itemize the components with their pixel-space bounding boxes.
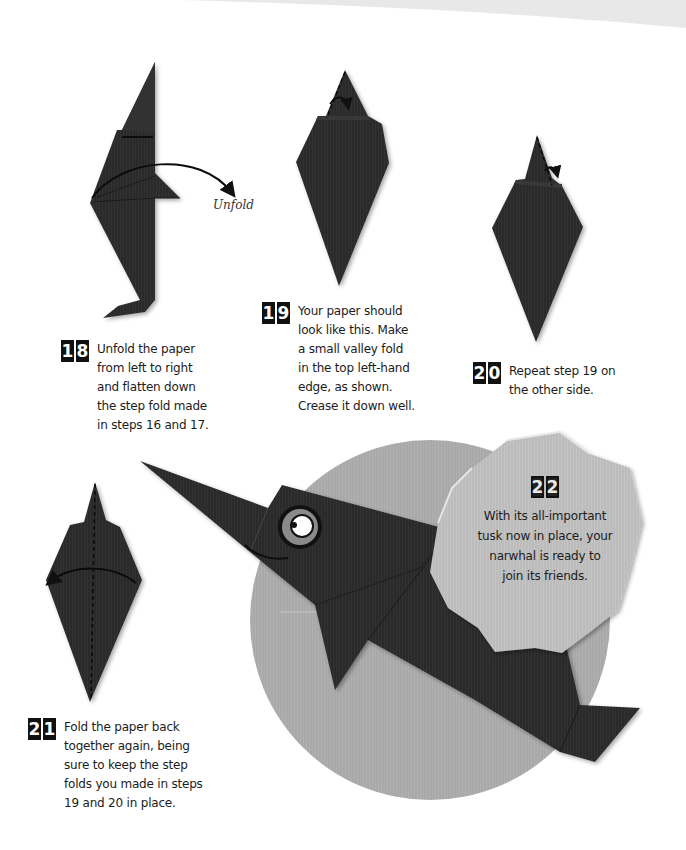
step-number-badge: 1 8 — [61, 340, 89, 362]
step-digit: 9 — [277, 302, 290, 324]
step-20-figure — [492, 135, 583, 342]
step-19-figure — [296, 70, 389, 286]
step-instructions: Your paper should look like this. Make a… — [298, 302, 415, 416]
step-digit: 8 — [76, 340, 89, 362]
step-number-badge: 2 0 — [473, 362, 501, 384]
step-22: 2 2 With its all-important tusk now in p… — [470, 476, 620, 586]
step-19: 1 9 Your paper should look like this. Ma… — [262, 302, 415, 416]
step-18-figure — [90, 62, 180, 318]
step-digit: 2 — [473, 362, 486, 384]
step-18: 1 8 Unfold the paper from left to right … — [61, 340, 209, 435]
unfold-annotation: Unfold — [213, 198, 254, 212]
step-number-badge: 2 2 — [470, 476, 620, 498]
step-instructions: Fold the paper back together again, bein… — [64, 718, 203, 813]
step-digit: 1 — [61, 340, 74, 362]
step-digit: 1 — [43, 718, 56, 740]
step-instructions: With its all-important tusk now in place… — [470, 506, 620, 586]
step-20: 2 0 Repeat step 19 on the other side. — [473, 362, 615, 400]
step-number-badge: 1 9 — [262, 302, 290, 324]
step-digit: 1 — [262, 302, 275, 324]
step-digit: 2 — [28, 718, 41, 740]
step-digit: 0 — [488, 362, 501, 384]
step-instructions: Unfold the paper from left to right and … — [97, 340, 209, 435]
step-digit: 2 — [531, 476, 544, 498]
step-instructions: Repeat step 19 on the other side. — [509, 362, 615, 400]
step-digit: 2 — [546, 476, 559, 498]
step-21: 2 1 Fold the paper back together again, … — [28, 718, 203, 813]
step-number-badge: 2 1 — [28, 718, 56, 740]
narwhal-eye — [278, 505, 322, 549]
